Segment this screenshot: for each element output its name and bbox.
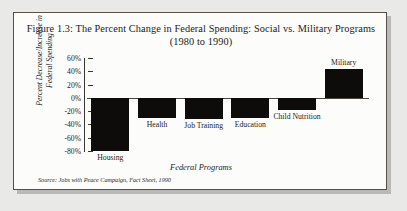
figure-title-line1: Figure 1.3: The Percent Change in Federa… (27, 23, 375, 34)
bar-label-education: Education (235, 120, 266, 129)
y-tick-label: 60% (67, 54, 81, 63)
bar-health (138, 98, 176, 118)
figure-title-line2: (1980 to 1990) (14, 35, 388, 48)
y-tick-label: 0% (71, 93, 81, 102)
y-tick-mark (88, 151, 93, 152)
y-tick-label: -40% (65, 120, 81, 129)
y-tick-label: -60% (65, 133, 81, 142)
y-tick-label: 40% (67, 67, 81, 76)
figure-frame: Figure 1.3: The Percent Change in Federa… (13, 12, 387, 190)
bar-military (325, 69, 363, 98)
bar-job-training (185, 98, 223, 119)
bar-label-military: Military (331, 58, 356, 67)
bar-label-housing: Housing (97, 153, 123, 162)
y-axis-title: Percent Decrease/Increase in Federal Spe… (35, 7, 54, 115)
bar-label-job-training: Job Training (184, 121, 223, 130)
bar-housing (91, 98, 129, 151)
y-tick-label: -80% (65, 147, 81, 156)
bar-label-child-nutrition: Child Nutrition (273, 112, 320, 121)
bar-education (231, 98, 269, 118)
source-note: Source: Jobs with Peace Campaign, Fact S… (38, 176, 171, 183)
figure-title: Figure 1.3: The Percent Change in Federa… (14, 22, 388, 48)
x-axis-title: Federal Programs (14, 163, 388, 172)
plot-area: HousingHealthJob TrainingEducationChild … (87, 58, 367, 151)
y-tick-label: 20% (67, 80, 81, 89)
figure-page: Figure 1.3: The Percent Change in Federa… (0, 0, 407, 211)
y-axis-ticks: 60%40%20%0%-20%-40%-60%-80% (54, 58, 86, 151)
y-axis-line (84, 58, 85, 152)
bar-label-health: Health (147, 120, 168, 129)
y-tick-label: -20% (65, 107, 81, 116)
bar-child-nutrition (278, 98, 316, 110)
